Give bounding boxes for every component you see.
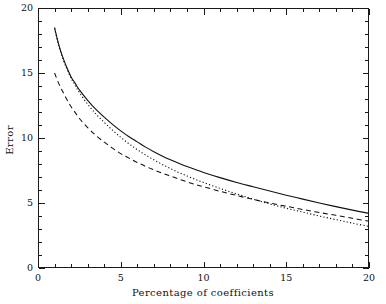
chart-background [0, 0, 386, 304]
x-tick-label: 5 [118, 272, 124, 283]
y-tick-label: 20 [21, 2, 33, 13]
y-tick-label: 15 [21, 67, 33, 78]
x-axis-title: Percentage of coefficients [132, 287, 274, 298]
error-vs-percentage-line-chart: 05101520 05101520 Percentage of coeffici… [0, 0, 386, 304]
x-tick-label: 0 [35, 272, 41, 283]
y-axis-title: Error [4, 125, 15, 155]
chart-figure: 05101520 05101520 Percentage of coeffici… [0, 0, 386, 304]
y-tick-label: 0 [27, 262, 33, 273]
x-tick-label: 10 [197, 272, 209, 283]
x-tick-label: 15 [280, 272, 292, 283]
x-tick-label: 20 [363, 272, 375, 283]
y-tick-label: 5 [27, 197, 33, 208]
y-tick-label: 10 [21, 132, 33, 143]
